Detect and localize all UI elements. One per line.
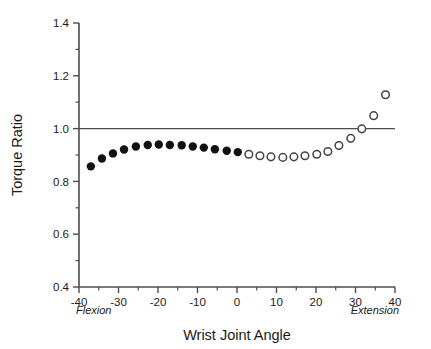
data-point-filled	[211, 145, 219, 153]
data-point-open	[382, 91, 390, 99]
data-point-filled	[109, 149, 117, 157]
x-tick-label: -30	[110, 296, 127, 308]
data-point-open	[245, 150, 253, 158]
data-point-filled	[166, 141, 174, 149]
x-axis-title: Wrist Joint Angle	[183, 327, 291, 343]
data-point-filled	[223, 147, 231, 155]
data-point-open	[370, 112, 378, 120]
data-point-filled	[155, 140, 163, 148]
data-point-open	[301, 152, 309, 160]
data-point-filled	[98, 154, 106, 162]
data-point-open	[313, 150, 321, 158]
y-tick-label: 0.6	[53, 228, 69, 240]
data-point-open	[256, 152, 264, 160]
y-tick-label: 0.4	[53, 281, 70, 293]
data-point-filled	[132, 142, 140, 150]
extension-label: Extension	[351, 304, 399, 316]
x-tick-label: 0	[234, 296, 240, 308]
data-point-open	[267, 153, 275, 161]
x-tick-label: -20	[150, 296, 167, 308]
data-point-open	[324, 148, 332, 156]
data-point-filled	[87, 162, 95, 170]
flexion-label: Flexion	[76, 304, 111, 316]
data-point-open	[358, 125, 366, 133]
data-point-open	[347, 135, 355, 143]
figure-container: 0.40.60.81.01.21.4-40-30-20-10010203040W…	[0, 0, 431, 349]
y-tick-label: 1.4	[53, 17, 70, 29]
y-tick-label: 1.2	[53, 70, 69, 82]
y-axis-title: Torque Ratio	[9, 114, 25, 196]
x-tick-label: -10	[189, 296, 206, 308]
series-filled	[87, 140, 242, 170]
y-tick-label: 0.8	[53, 176, 69, 188]
scatter-plot: 0.40.60.81.01.21.4-40-30-20-10010203040W…	[0, 0, 431, 349]
data-point-filled	[200, 143, 208, 151]
data-point-filled	[144, 141, 152, 149]
series-open	[245, 91, 389, 161]
data-point-open	[279, 154, 287, 162]
data-point-open	[290, 153, 298, 161]
x-tick-label: 20	[310, 296, 323, 308]
x-tick-label: 10	[270, 296, 283, 308]
data-point-open	[335, 142, 343, 150]
data-point-filled	[178, 141, 186, 149]
y-tick-label: 1.0	[53, 123, 69, 135]
data-point-filled	[189, 142, 197, 150]
data-point-filled	[120, 145, 128, 153]
data-point-filled	[234, 148, 242, 156]
